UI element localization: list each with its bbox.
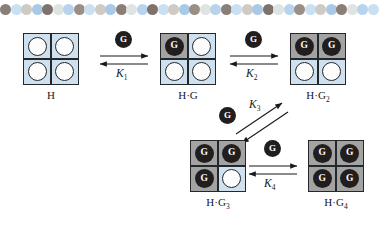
site-top-right[interactable] xyxy=(52,34,78,58)
caption-text: H·G4 xyxy=(324,196,347,208)
bead xyxy=(326,4,337,15)
bound-guest-icon: G xyxy=(195,144,214,163)
bound-guest-icon: G xyxy=(165,37,184,56)
equilibrium-label-K1: K1 xyxy=(116,67,127,82)
site-bottom-left[interactable] xyxy=(291,60,317,84)
bead xyxy=(84,4,95,15)
bead xyxy=(53,4,64,15)
site-bottom-right[interactable] xyxy=(189,60,215,84)
free-guest-icon-K1: G xyxy=(115,31,132,48)
bead xyxy=(210,4,221,15)
site-top-right[interactable] xyxy=(189,34,215,58)
bead xyxy=(126,4,137,15)
bead xyxy=(347,4,358,15)
bead xyxy=(189,4,200,15)
species-caption-HG4: H·G4 xyxy=(308,196,364,211)
empty-site-ring-icon xyxy=(192,62,211,81)
arrow-pair-K2 xyxy=(230,56,278,64)
site-bottom-left[interactable]: G xyxy=(191,167,217,191)
equilibrium-label-K2: K2 xyxy=(246,67,257,82)
bead xyxy=(242,4,253,15)
bead xyxy=(168,4,179,15)
species-box-H[interactable] xyxy=(23,33,79,85)
site-bottom-right[interactable] xyxy=(52,60,78,84)
empty-site-ring-icon xyxy=(322,62,341,81)
empty-site-ring-icon xyxy=(192,37,211,56)
arrow-pair-K4 xyxy=(249,166,297,174)
site-bottom-right[interactable] xyxy=(319,60,345,84)
bead xyxy=(32,4,43,15)
bead xyxy=(336,4,347,15)
caption-text: H·G3 xyxy=(206,196,229,208)
empty-site-ring-icon xyxy=(222,169,241,188)
species-box-HG4[interactable]: G G G G xyxy=(308,140,364,192)
site-bottom-right[interactable]: G xyxy=(337,167,363,191)
species-caption-HG3: H·G3 xyxy=(190,196,246,211)
species-caption-HG: H·G xyxy=(160,89,216,101)
decorative-bead-border xyxy=(0,0,389,18)
bead xyxy=(21,4,32,15)
bead xyxy=(137,4,148,15)
site-bottom-left[interactable] xyxy=(24,60,50,84)
empty-site-ring-icon xyxy=(28,62,47,81)
bound-guest-icon: G xyxy=(322,37,341,56)
bound-guest-icon: G xyxy=(195,169,214,188)
bound-guest-icon: G xyxy=(295,37,314,56)
bound-guest-icon: G xyxy=(340,169,359,188)
k-text: K3 xyxy=(249,98,260,110)
k-text: K4 xyxy=(264,177,275,189)
bound-guest-icon: G xyxy=(313,169,332,188)
bead xyxy=(179,4,190,15)
k-text: K1 xyxy=(116,67,127,79)
bead xyxy=(74,4,85,15)
bound-guest-icon: G xyxy=(340,144,359,163)
species-box-HG3[interactable]: G G G xyxy=(190,140,246,192)
bead xyxy=(158,4,169,15)
empty-site-ring-icon xyxy=(295,62,314,81)
bead xyxy=(294,4,305,15)
empty-site-ring-icon xyxy=(28,37,47,56)
site-top-left[interactable]: G xyxy=(161,34,187,58)
species-box-HG[interactable]: G xyxy=(160,33,216,85)
bead xyxy=(284,4,295,15)
species-box-HG2[interactable]: G G xyxy=(290,33,346,85)
site-top-left[interactable]: G xyxy=(191,141,217,165)
site-top-left[interactable] xyxy=(24,34,50,58)
equilibrium-label-K4: K4 xyxy=(264,177,275,192)
site-bottom-left[interactable] xyxy=(161,60,187,84)
empty-site-ring-icon xyxy=(55,37,74,56)
bead xyxy=(273,4,284,15)
k-text: K2 xyxy=(246,67,257,79)
bead xyxy=(305,4,316,15)
site-top-right[interactable]: G xyxy=(219,141,245,165)
bead xyxy=(357,4,368,15)
bead xyxy=(221,4,232,15)
empty-site-ring-icon xyxy=(165,62,184,81)
bound-guest-icon: G xyxy=(222,144,241,163)
site-top-right[interactable]: G xyxy=(319,34,345,58)
bead xyxy=(11,4,22,15)
bead xyxy=(252,4,263,15)
bead xyxy=(105,4,116,15)
site-top-left[interactable]: G xyxy=(309,141,335,165)
free-guest-icon-K3: G xyxy=(219,107,236,124)
bead xyxy=(263,4,274,15)
free-guest-icon-K2: G xyxy=(245,31,262,48)
site-top-left[interactable]: G xyxy=(291,34,317,58)
site-bottom-right[interactable] xyxy=(219,167,245,191)
caption-text: H·G xyxy=(178,89,198,101)
bead xyxy=(95,4,106,15)
bead xyxy=(63,4,74,15)
figure-canvas: H G H·G G G H·G2 G G G H·G3 G G G G H·G4… xyxy=(0,0,389,231)
site-top-right[interactable]: G xyxy=(337,141,363,165)
bead xyxy=(0,4,11,15)
empty-site-ring-icon xyxy=(55,62,74,81)
bead xyxy=(231,4,242,15)
bead xyxy=(200,4,211,15)
caption-text: H·G2 xyxy=(306,89,329,101)
bead xyxy=(368,4,379,15)
free-guest-icon-K4: G xyxy=(264,140,281,157)
bead xyxy=(42,4,53,15)
arrow-pair-K3 xyxy=(236,103,288,143)
site-bottom-left[interactable]: G xyxy=(309,167,335,191)
